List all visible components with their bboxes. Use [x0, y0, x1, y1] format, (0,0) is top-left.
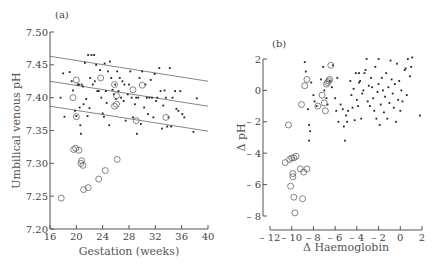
data-point-open-circle [113, 93, 119, 99]
data-point-open-circle [282, 160, 288, 166]
data-point-dot [100, 97, 102, 99]
data-point-dot [174, 90, 176, 92]
data-point-dot [137, 97, 139, 99]
data-point-dot [87, 115, 89, 117]
data-point-dot [127, 93, 129, 95]
y-tick-label: 7.25 [26, 191, 48, 202]
data-point-dot [170, 126, 172, 128]
x-axis-title: Gestation (weeks) [79, 245, 179, 258]
data-point-dot [106, 102, 108, 104]
data-point-dot [79, 124, 81, 126]
data-point-dot [386, 118, 388, 120]
data-point-dot [107, 71, 109, 73]
x-tick-label: – 10 [281, 232, 302, 243]
data-point-dot [399, 110, 401, 112]
data-point-dot [309, 130, 311, 132]
data-point-open-circle [70, 95, 76, 101]
data-point-dot [62, 72, 64, 74]
data-point-dot [155, 100, 157, 102]
data-point-dot [314, 100, 316, 102]
data-point-open-circle [114, 156, 120, 162]
data-point-dot [114, 84, 116, 86]
x-tick-label: 40 [202, 231, 215, 242]
data-point-open-circle [58, 195, 64, 201]
data-point-dot [78, 84, 80, 86]
y-tick-label: – 2 [246, 116, 261, 127]
data-point-open-circle [133, 118, 139, 124]
data-point-dot [374, 66, 376, 68]
data-point-dot [112, 89, 114, 91]
data-point-dot [358, 72, 360, 74]
data-point-dot [89, 77, 91, 79]
data-point-dot [308, 140, 310, 142]
data-point-dot [316, 105, 318, 107]
data-point-dot [305, 71, 307, 73]
data-point-dot [165, 97, 167, 99]
data-point-dot [85, 98, 87, 100]
data-point-dot [345, 115, 347, 117]
data-point-open-circle [298, 102, 304, 108]
data-point-dot [80, 133, 82, 135]
data-point-dot [102, 113, 104, 115]
data-point-dot [376, 118, 378, 120]
data-point-dot [390, 60, 392, 62]
data-point-dot [122, 80, 124, 82]
data-point-dot [75, 115, 77, 117]
data-point-dot [158, 67, 160, 69]
data-point-dot [146, 97, 148, 99]
panel-a-gestation-ph-scatter: (a)7.207.257.307.357.407.457.50162024283… [10, 9, 214, 258]
data-point-dot [154, 73, 156, 75]
x-tick-label: 2 [419, 232, 425, 243]
data-point-dot [313, 94, 315, 96]
data-point-open-circle [322, 108, 328, 114]
data-point-dot [387, 86, 389, 88]
data-point-dot [361, 93, 363, 95]
data-point-dot [81, 84, 83, 86]
data-point-dot [89, 107, 91, 109]
data-point-dot [183, 116, 185, 118]
data-point-dot [162, 105, 164, 107]
data-point-dot [404, 69, 406, 71]
data-point-dot [359, 80, 361, 82]
data-point-open-circle [288, 183, 294, 189]
data-point-dot [411, 57, 413, 59]
data-point-dot [342, 108, 344, 110]
x-tick-label: 28 [123, 231, 136, 242]
data-point-dot [166, 126, 168, 128]
data-point-open-circle [98, 75, 104, 81]
regression-line [50, 56, 208, 81]
data-point-dot [196, 97, 198, 99]
data-point-dot [407, 58, 409, 60]
x-tick-label: 36 [175, 231, 188, 242]
data-point-dot [99, 69, 101, 71]
data-point-open-circle [302, 83, 308, 89]
data-point-dot [71, 80, 73, 82]
data-point-dot [357, 105, 359, 107]
data-point-dot [110, 77, 112, 79]
data-point-dot [79, 107, 81, 109]
data-point-dot [379, 124, 381, 126]
data-point-dot [108, 124, 110, 126]
data-point-dot [149, 97, 151, 99]
data-point-dot [116, 71, 118, 73]
data-point-dot [139, 77, 141, 79]
data-point-dot [60, 97, 62, 99]
data-point-dot [380, 104, 382, 106]
data-point-dot [64, 116, 66, 118]
data-point-dot [326, 97, 328, 99]
data-point-dot [353, 88, 355, 90]
data-point-open-circle [96, 176, 102, 182]
data-point-dot [331, 86, 333, 88]
data-point-dot [308, 124, 310, 126]
data-point-dot [344, 140, 346, 142]
data-point-dot [370, 77, 372, 79]
data-point-dot [354, 119, 356, 121]
x-tick-label: 20 [70, 231, 83, 242]
data-point-dot [95, 64, 97, 66]
y-axis-title: Δ pH [235, 123, 248, 151]
data-point-dot [352, 107, 354, 109]
data-point-dot [378, 83, 380, 85]
data-point-dot [366, 58, 368, 60]
data-point-dot [181, 113, 183, 115]
panel-label: (a) [55, 9, 69, 20]
